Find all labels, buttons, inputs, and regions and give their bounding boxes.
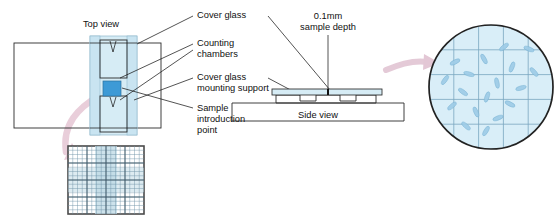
hemocytometer-figure: Top view Cover glass Counting chambers C… [0,0,555,219]
depth-annotation-line2: sample depth [287,22,369,33]
callout-sample-point-line3: point [197,125,217,136]
side-view-slide [232,35,404,121]
side-view-label: Side view [287,110,349,121]
callout-mounting-support-line1: Cover glass [197,72,246,83]
callout-counting-chambers-line2: chambers [197,49,238,60]
depth-annotation-line1: 0.1mm [292,11,364,22]
sample-introduction-square [103,81,121,96]
top-view-slide [14,36,161,135]
callout-cover-glass: Cover glass [197,10,246,21]
top-view-label: Top view [66,19,136,30]
callout-sample-point-line1: Sample [197,103,229,114]
callout-counting-chambers-line1: Counting [197,38,234,49]
micrograph-field [429,25,553,149]
callout-mounting-support-line2: mounting support [197,83,269,94]
counting-grid [68,146,144,214]
figure-canvas [0,0,555,219]
callout-sample-point-line2: introduction [197,114,245,125]
